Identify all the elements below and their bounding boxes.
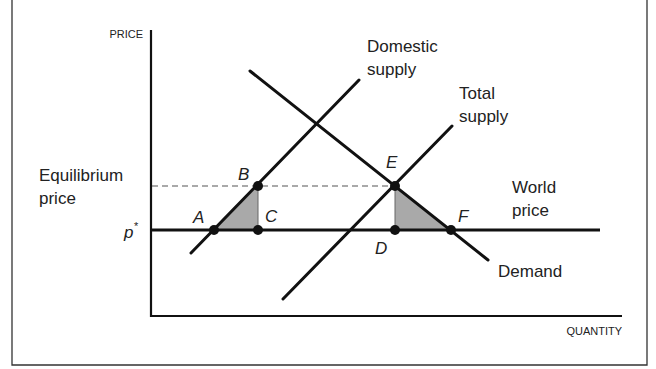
equilibrium-price-label-2: price xyxy=(39,189,76,208)
point-a xyxy=(209,225,219,235)
y-axis-label: PRICE xyxy=(109,28,143,40)
domestic-supply-label-1: Domestic xyxy=(367,37,438,56)
world-price-label-1: World xyxy=(512,178,556,197)
point-f-label: F xyxy=(458,207,470,226)
total-supply-label-2: supply xyxy=(459,107,509,126)
point-d-label: D xyxy=(375,239,387,258)
point-f xyxy=(446,225,456,235)
point-e xyxy=(390,181,400,191)
point-c-label: C xyxy=(265,207,278,226)
demand-label: Demand xyxy=(498,262,562,281)
trade-diagram: PRICE QUANTITY Domestic supply Total sup… xyxy=(0,0,656,369)
point-d xyxy=(390,225,400,235)
point-a-label: A xyxy=(192,208,204,227)
point-c xyxy=(253,225,263,235)
domestic-supply-label-2: supply xyxy=(367,60,417,79)
point-b xyxy=(253,181,263,191)
equilibrium-price-label-1: Equilibrium xyxy=(39,166,123,185)
world-price-label-2: price xyxy=(512,201,549,220)
total-supply-label-1: Total xyxy=(459,84,495,103)
x-axis-label: QUANTITY xyxy=(566,325,622,337)
p-star-label: p* xyxy=(123,220,138,242)
point-e-label: E xyxy=(386,153,398,172)
point-b-label: B xyxy=(238,165,249,184)
